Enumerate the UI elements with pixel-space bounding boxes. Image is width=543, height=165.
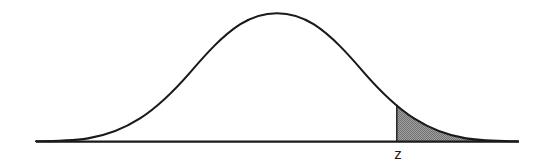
z-axis-label: z [394, 146, 402, 161]
shaded-tail-region [36, 13, 518, 141]
bell-curve-line [36, 13, 518, 141]
normal-distribution-figure: z [0, 0, 543, 165]
distribution-chart-svg [0, 0, 543, 165]
